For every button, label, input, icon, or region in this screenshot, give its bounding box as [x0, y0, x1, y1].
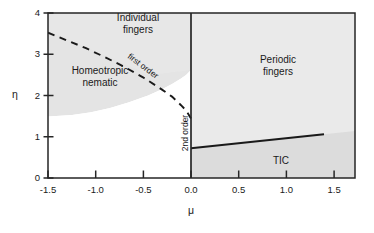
x-tick-label-3: 0.0: [184, 185, 197, 195]
region-label-homeotropic-nematic: Homeotropic nematic: [72, 65, 129, 89]
y-tick-label-0: 0: [26, 173, 40, 183]
region-label-homeotropic-nematic-line1: Homeotropic: [72, 65, 129, 76]
x-tick-label-0: -1.5: [40, 185, 56, 195]
y-tick-label-3: 3: [26, 50, 40, 60]
x-axis-title: μ: [188, 205, 194, 216]
region-label-homeotropic-nematic-line2: nematic: [82, 77, 117, 88]
boundary-label-2nd-order: 2nd order: [181, 115, 190, 151]
region-label-periodic-fingers-line2: fingers: [263, 66, 293, 77]
region-label-periodic-fingers-line1: Periodic: [260, 54, 296, 65]
region-label-individual-fingers-line2: fingers: [123, 24, 153, 35]
y-tick-label-4: 4: [26, 8, 40, 18]
y-tick-label-1: 1: [26, 132, 40, 142]
x-tick-label-1: -1.0: [88, 185, 104, 195]
x-tick-label-5: 1.0: [280, 185, 293, 195]
x-tick-label-4: 0.5: [232, 185, 245, 195]
x-tick-label-2: -0.5: [135, 185, 151, 195]
region-label-tic: TIC: [273, 155, 289, 167]
region-label-individual-fingers: Individual fingers: [117, 12, 159, 36]
x-tick-label-6: 1.5: [327, 185, 340, 195]
region-label-individual-fingers-line1: Individual: [117, 12, 159, 23]
phase-diagram-figure: -1.5 -1.0 -0.5 0.0 0.5 1.0 1.5 0 1 2 3 4…: [0, 0, 374, 233]
region-label-periodic-fingers: Periodic fingers: [260, 54, 296, 78]
y-axis-title: η: [12, 89, 18, 100]
y-tick-label-2: 2: [26, 91, 40, 101]
